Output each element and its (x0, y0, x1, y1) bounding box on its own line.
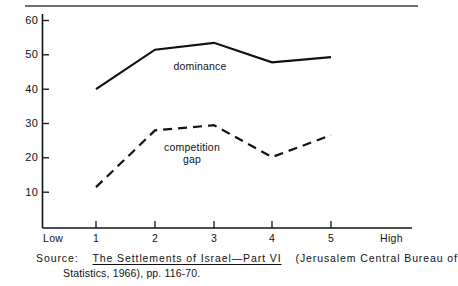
line-chart-plot (0, 0, 418, 250)
y-tick-label-20: 20 (14, 152, 38, 163)
source-publication-title: The Settlements of Israel—Part VI (93, 252, 282, 264)
source-prefix: Source: (36, 252, 79, 264)
source-line-2: Statistics, 1966), pp. 116-70. (63, 266, 414, 281)
series-label-competition-gap-line2: gap (183, 153, 201, 165)
x-axis-high-label: High (380, 233, 403, 244)
y-tick-label-30: 30 (14, 118, 38, 129)
x-tick-label-2: 2 (135, 233, 175, 244)
source-publisher: (Jerusalem Central Bureau of (296, 252, 458, 264)
x-axis-low-label: Low (43, 233, 63, 244)
y-tick-label-50: 50 (14, 49, 38, 60)
series-label-competition-gap: competition gap (150, 141, 234, 165)
source-line-1: Source:The Settlements of Israel—Part VI… (36, 251, 414, 266)
y-axis-ticks (43, 21, 50, 193)
x-tick-label-3: 3 (194, 233, 234, 244)
y-tick-label-10: 10 (14, 187, 38, 198)
source-caption: Source:The Settlements of Israel—Part VI… (36, 251, 414, 281)
y-tick-label-40: 40 (14, 84, 38, 95)
chart-figure: 60 50 40 30 20 10 Low 1 2 3 4 5 High dom… (0, 0, 418, 250)
x-tick-label-4: 4 (252, 233, 292, 244)
x-tick-label-1: 1 (76, 233, 116, 244)
x-tick-label-5: 5 (311, 233, 351, 244)
y-tick-label-60: 60 (14, 15, 38, 26)
series-label-dominance: dominance (162, 60, 238, 72)
x-axis-ticks (96, 221, 331, 228)
series-label-competition-gap-line1: competition (164, 141, 220, 153)
